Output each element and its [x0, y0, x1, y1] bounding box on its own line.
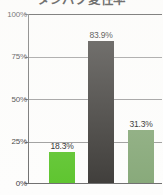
chart-title: タンパク変性率: [0, 0, 163, 7]
bar-3[interactable]: [128, 130, 154, 183]
bar-3-value-label: 31.3%: [122, 120, 160, 129]
gridline-100: [28, 14, 162, 15]
bar-1[interactable]: [49, 152, 75, 183]
y-axis-line: [28, 14, 29, 184]
bar-2-value-label: 83.9%: [82, 31, 120, 40]
y-axis-label-75: 75%: [1, 53, 27, 61]
y-axis-label-50: 50%: [1, 96, 27, 104]
y-axis-label-25: 25%: [1, 138, 27, 146]
x-axis-line: [25, 183, 162, 184]
bar-2[interactable]: [88, 41, 114, 183]
y-axis-label-100: 100%: [1, 11, 27, 19]
protein-denaturation-bar-chart: タンパク変性率 100% 75% 50% 25% 0% 18.3% 83.9% …: [0, 0, 163, 195]
plot-area: 100% 75% 50% 25% 0% 18.3% 83.9% 31.3%: [28, 14, 162, 184]
bar-1-value-label: 18.3%: [43, 142, 81, 151]
y-axis-label-0: 0%: [1, 180, 27, 188]
